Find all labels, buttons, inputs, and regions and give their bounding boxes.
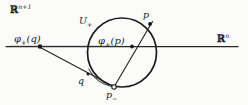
point-phi-q-marker <box>38 44 42 48</box>
label-south-pole: p− <box>106 90 117 100</box>
label-projection-p: φ+(p) <box>98 36 125 46</box>
label-ambient-space: ℝn+1 <box>10 5 31 15</box>
label-projection-q: φ+(q) <box>14 34 41 44</box>
projection-p-argument: (p) <box>111 35 125 46</box>
point-phi-p-marker <box>130 45 134 49</box>
label-upper-chart: U+ <box>79 16 92 26</box>
ray-through-q <box>39 47 115 88</box>
figure-canvas <box>0 0 248 105</box>
point-p-minus-marker <box>112 85 116 89</box>
upper-chart-symbol: U <box>79 15 87 26</box>
projection-q-symbol: φ <box>14 33 21 44</box>
south-pole-subscript: − <box>112 95 117 102</box>
projection-q-argument: (q) <box>27 33 41 44</box>
label-point-q: q <box>78 76 84 86</box>
label-base-space: ℝn <box>217 34 229 44</box>
ambient-space-exponent: n+1 <box>18 3 31 10</box>
sphere-circle <box>88 18 157 87</box>
stereographic-projection-figure: ℝn+1 ℝn U+ p φ+(p) φ+(q) q p− <box>0 0 248 105</box>
label-point-p: p <box>143 10 149 20</box>
point-p-marker <box>148 22 152 26</box>
point-q-symbol: q <box>78 75 84 86</box>
point-q-marker <box>87 73 90 76</box>
projection-p-symbol: φ <box>98 35 105 46</box>
upper-chart-subscript: + <box>87 21 92 28</box>
point-p-symbol: p <box>143 9 149 20</box>
base-space-exponent: n <box>225 32 229 39</box>
